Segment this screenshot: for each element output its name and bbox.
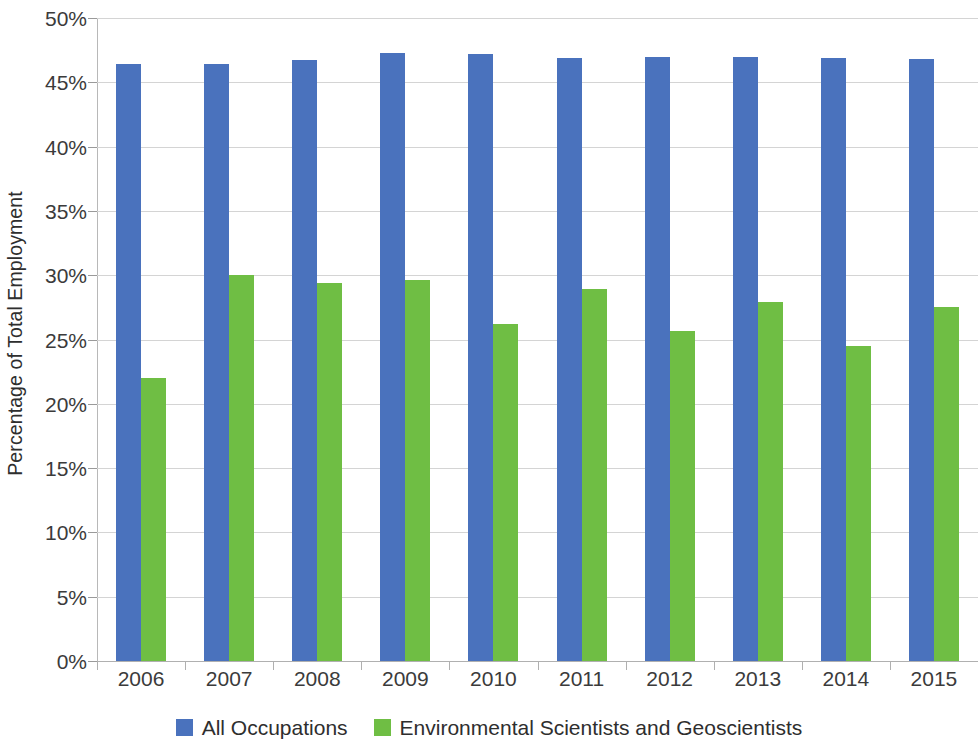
legend-item[interactable]: All Occupations: [176, 717, 348, 738]
y-axis-tick-label: 25%: [45, 329, 87, 350]
y-axis-tick: [88, 532, 97, 533]
bar: [846, 346, 871, 661]
legend-color-swatch: [176, 719, 193, 736]
y-axis-tick: [88, 18, 97, 19]
gridline: [97, 18, 978, 19]
bar: [204, 64, 229, 661]
bar: [670, 331, 695, 662]
chart-legend: All OccupationsEnvironmental Scientists …: [0, 708, 978, 747]
x-axis-tick-label: 2011: [559, 668, 604, 689]
bar: [380, 53, 405, 661]
x-axis-tick-label: 2006: [118, 668, 165, 689]
plot-area: [97, 18, 978, 661]
x-axis-tick-label: 2010: [470, 668, 517, 689]
bar: [229, 275, 254, 661]
y-axis-tick-label: 35%: [45, 200, 87, 221]
legend-label: All Occupations: [202, 717, 348, 738]
bar: [317, 283, 342, 661]
y-axis-tick-label: 5%: [57, 586, 87, 607]
gridline: [97, 211, 978, 212]
y-axis-tick: [88, 211, 97, 212]
y-axis-tick: [88, 597, 97, 598]
y-axis-tick: [88, 340, 97, 341]
x-axis-tick-label: 2007: [206, 668, 253, 689]
bar: [934, 307, 959, 661]
bar: [821, 58, 846, 661]
x-axis-tick-labels: 2006200720082009201020112012201320142015: [97, 666, 978, 702]
x-axis-tick-label: 2013: [734, 668, 781, 689]
y-axis-tick-label: 45%: [45, 72, 87, 93]
x-axis-tick-label: 2015: [911, 668, 958, 689]
y-axis-tick: [88, 82, 97, 83]
bar: [116, 64, 141, 661]
y-axis-tick: [88, 404, 97, 405]
y-axis-tick-label: 30%: [45, 265, 87, 286]
y-axis-tick: [88, 275, 97, 276]
y-axis-tick: [88, 661, 97, 662]
bar: [557, 58, 582, 661]
bar: [758, 302, 783, 661]
x-axis-tick-label: 2012: [646, 668, 693, 689]
bar: [292, 60, 317, 661]
legend-label: Environmental Scientists and Geoscientis…: [400, 717, 803, 738]
y-axis-tick: [88, 468, 97, 469]
bar: [468, 54, 493, 661]
bar-chart: Percentage of Total Employment 0%5%10%15…: [0, 0, 978, 747]
y-axis-tick-label: 15%: [45, 458, 87, 479]
bar: [733, 57, 758, 661]
bar: [582, 289, 607, 661]
x-axis-tick-label: 2014: [822, 668, 869, 689]
legend-item[interactable]: Environmental Scientists and Geoscientis…: [374, 717, 803, 738]
y-axis-title-text: Percentage of Total Employment: [4, 191, 27, 475]
y-axis-tick: [88, 147, 97, 148]
y-axis-tick-label: 0%: [57, 651, 87, 672]
bar: [141, 378, 166, 661]
legend-color-swatch: [374, 719, 391, 736]
bar: [405, 280, 430, 661]
x-axis-tick-label: 2009: [382, 668, 429, 689]
bar: [493, 324, 518, 661]
gridline: [97, 82, 978, 83]
y-axis-tick-label: 40%: [45, 136, 87, 157]
y-axis-tick-labels: 0%5%10%15%20%25%30%35%40%45%50%: [30, 0, 93, 666]
x-axis-tick-label: 2008: [294, 668, 341, 689]
bar: [909, 59, 934, 661]
y-axis-tick-label: 10%: [45, 522, 87, 543]
y-axis-tick-label: 20%: [45, 393, 87, 414]
y-axis-title: Percentage of Total Employment: [0, 0, 30, 666]
gridline: [97, 147, 978, 148]
bar: [645, 57, 670, 661]
y-axis-tick-label: 50%: [45, 8, 87, 29]
